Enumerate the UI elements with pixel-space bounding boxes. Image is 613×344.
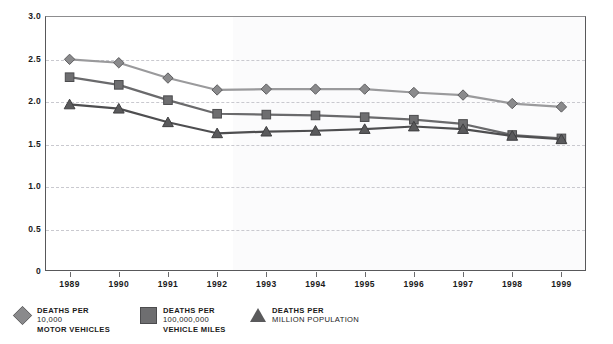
diamond-marker	[212, 85, 222, 95]
x-axis-tick-label: 1997	[453, 279, 474, 289]
x-axis-labels: 1989199019911992199319941995199619971998…	[45, 272, 586, 294]
square-marker	[360, 113, 369, 122]
x-axis-tick	[512, 272, 513, 277]
x-axis-tick-label: 1999	[551, 279, 572, 289]
diamond-marker	[163, 73, 173, 83]
legend-label-line: VEHICLE MILES	[163, 325, 226, 334]
diamond-marker	[13, 306, 32, 325]
diamond-marker	[409, 87, 419, 97]
legend-item-1[interactable]: DEATHS PER10,000MOTOR VEHICLES	[14, 306, 110, 334]
legend-label: DEATHS PERMILLION POPULATION	[272, 306, 359, 325]
x-axis-tick-label: 1993	[256, 279, 277, 289]
y-axis-tick-label: 1.5	[1, 139, 41, 149]
y-axis-labels: 00.51.01.52.02.53.0	[0, 16, 41, 271]
x-axis-tick	[463, 272, 464, 277]
diamond-marker	[458, 90, 468, 100]
legend-label-line: 100,000,000	[163, 315, 226, 324]
x-axis-tick	[316, 272, 317, 277]
legend-label-line: 10,000	[37, 315, 110, 324]
series-layer	[45, 16, 586, 271]
legend-label-line: MILLION POPULATION	[272, 315, 359, 324]
square-marker	[164, 96, 173, 105]
y-axis-tick-label: 2.5	[1, 54, 41, 64]
y-axis-tick-label: 3.0	[1, 11, 41, 21]
y-axis-tick-label: 0	[1, 266, 41, 276]
square-marker	[140, 307, 157, 324]
x-axis-tick	[119, 272, 120, 277]
x-axis-tick	[365, 272, 366, 277]
diamond-marker	[310, 84, 320, 94]
diamond-marker	[261, 84, 271, 94]
series-line	[70, 59, 562, 107]
diamond-marker	[507, 98, 517, 108]
diamond-marker	[114, 58, 124, 68]
square-marker	[114, 81, 123, 90]
legend-item-3[interactable]: DEATHS PERMILLION POPULATION	[250, 306, 359, 325]
x-axis-tick-label: 1995	[354, 279, 375, 289]
square-marker	[311, 111, 320, 120]
x-axis-tick-label: 1989	[59, 279, 80, 289]
y-axis-tick-label: 1.0	[1, 181, 41, 191]
square-marker	[213, 109, 222, 118]
square-marker	[65, 73, 74, 82]
diamond-marker	[64, 54, 74, 64]
x-axis-tick	[414, 272, 415, 277]
legend-label-line: DEATHS PER	[37, 306, 110, 315]
x-axis-tick-label: 1996	[404, 279, 425, 289]
legend-label-line: DEATHS PER	[272, 306, 359, 315]
x-axis-tick	[70, 272, 71, 277]
x-axis-tick	[217, 272, 218, 277]
x-axis-tick-label: 1998	[502, 279, 523, 289]
x-axis-tick	[561, 272, 562, 277]
x-axis-tick-label: 1991	[158, 279, 179, 289]
chart-legend: DEATHS PER10,000MOTOR VEHICLESDEATHS PER…	[14, 306, 599, 342]
y-axis-tick-label: 0.5	[1, 224, 41, 234]
triangle-marker	[250, 308, 266, 322]
x-axis-tick-label: 1992	[207, 279, 228, 289]
legend-label: DEATHS PER100,000,000VEHICLE MILES	[163, 306, 226, 334]
series-3	[64, 99, 567, 143]
x-axis-tick	[168, 272, 169, 277]
x-axis-tick-label: 1990	[109, 279, 130, 289]
x-axis-tick-label: 1994	[305, 279, 326, 289]
diamond-marker	[556, 102, 566, 112]
chart-root: 00.51.01.52.02.53.0 19891990199119921993…	[0, 0, 613, 344]
series-1	[64, 54, 566, 112]
legend-label-line: MOTOR VEHICLES	[37, 325, 110, 334]
y-axis-tick-label: 2.0	[1, 96, 41, 106]
square-marker	[262, 110, 271, 119]
x-axis-tick	[266, 272, 267, 277]
legend-label-line: DEATHS PER	[163, 306, 226, 315]
legend-item-2[interactable]: DEATHS PER100,000,000VEHICLE MILES	[140, 306, 226, 334]
legend-label: DEATHS PER10,000MOTOR VEHICLES	[37, 306, 110, 334]
diamond-marker	[359, 84, 369, 94]
